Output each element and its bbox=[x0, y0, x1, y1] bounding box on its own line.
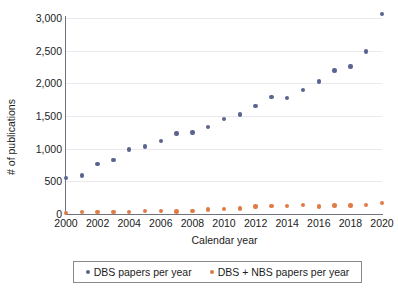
data-point bbox=[348, 64, 352, 68]
data-point bbox=[64, 176, 68, 180]
x-axis-tick-labels: 2000200220042006200820102012201420162018… bbox=[66, 217, 383, 231]
chart-legend: DBS papers per yearDBS + NBS papers per … bbox=[73, 261, 362, 283]
legend-entry[interactable]: DBS + NBS papers per year bbox=[210, 266, 350, 278]
data-point bbox=[222, 207, 226, 211]
data-point bbox=[238, 112, 242, 116]
data-point bbox=[206, 125, 210, 129]
data-point bbox=[364, 203, 368, 207]
gridline bbox=[66, 18, 382, 19]
data-point bbox=[301, 203, 305, 207]
gridline bbox=[66, 51, 382, 52]
data-point bbox=[332, 68, 336, 72]
data-point bbox=[269, 204, 273, 208]
y-tick-label: 2,500 bbox=[2, 46, 62, 56]
legend-label: DBS papers per year bbox=[94, 266, 192, 278]
data-point bbox=[317, 79, 321, 83]
data-point bbox=[364, 49, 368, 53]
data-point bbox=[80, 173, 84, 177]
data-point bbox=[143, 144, 147, 148]
data-point bbox=[159, 209, 163, 213]
x-tick-label: 2020 bbox=[362, 217, 398, 229]
y-tick-label: 2,000 bbox=[2, 78, 62, 88]
data-point bbox=[190, 209, 194, 213]
data-point bbox=[222, 117, 226, 121]
data-point bbox=[159, 139, 163, 143]
data-point bbox=[95, 210, 99, 214]
y-tick-label: 500 bbox=[2, 176, 62, 186]
legend-marker-icon bbox=[86, 270, 90, 274]
data-point bbox=[301, 88, 305, 92]
data-point bbox=[332, 203, 336, 207]
data-point bbox=[380, 12, 384, 16]
y-tick-label: 3,000 bbox=[2, 13, 62, 23]
data-point bbox=[285, 204, 289, 208]
plot-area bbox=[66, 18, 382, 214]
data-point bbox=[64, 211, 68, 215]
data-point bbox=[317, 204, 321, 208]
legend-entry[interactable]: DBS papers per year bbox=[86, 266, 192, 278]
data-point bbox=[206, 207, 210, 211]
data-point bbox=[238, 206, 242, 210]
data-point bbox=[190, 130, 194, 134]
data-point bbox=[143, 209, 147, 213]
data-point bbox=[111, 158, 115, 162]
data-point bbox=[269, 95, 273, 99]
gridline bbox=[66, 83, 382, 84]
legend-label: DBS + NBS papers per year bbox=[218, 266, 350, 278]
data-point bbox=[174, 209, 178, 213]
data-point bbox=[127, 147, 131, 151]
y-axis-tick-labels: 3,0002,5002,0001,5001,0005000 bbox=[0, 0, 62, 296]
gridline bbox=[66, 181, 382, 182]
data-point bbox=[285, 96, 289, 100]
y-tick-label: 1,500 bbox=[2, 111, 62, 121]
x-axis-title: Calendar year bbox=[66, 234, 383, 246]
y-tick-label: 1,000 bbox=[2, 144, 62, 154]
data-point bbox=[111, 210, 115, 214]
gridline bbox=[66, 149, 382, 150]
data-point bbox=[253, 204, 257, 208]
data-point bbox=[348, 203, 352, 207]
data-point bbox=[253, 104, 257, 108]
data-point bbox=[174, 131, 178, 135]
legend-marker-icon bbox=[210, 270, 214, 274]
data-point bbox=[95, 162, 99, 166]
gridline bbox=[66, 214, 382, 215]
data-point bbox=[380, 201, 384, 205]
